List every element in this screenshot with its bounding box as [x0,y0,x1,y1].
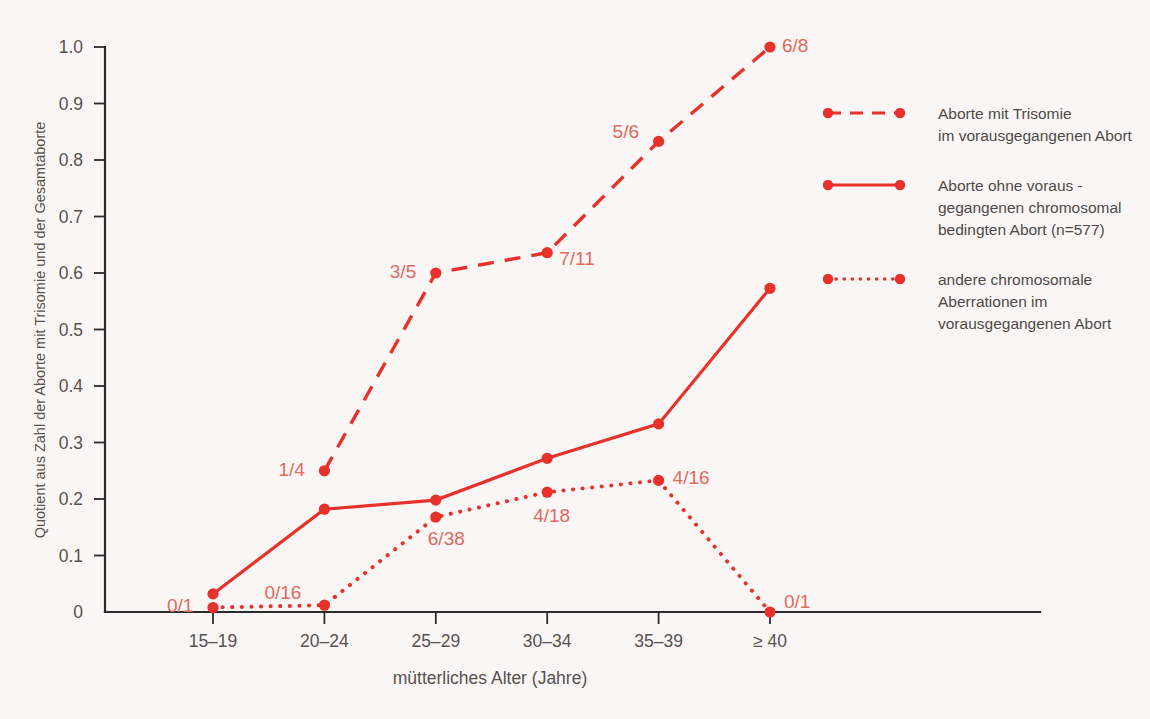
data-point [207,588,218,599]
y-tick-label: 0.2 [59,489,83,509]
y-axis-title-text: Quotient aus Zahl der Aborte mit Trisomi… [32,122,48,539]
legend-entry-1: Aborte mit Trisomieim vorausgegangenen A… [823,105,1133,144]
data-point-label: 0/1 [784,591,810,612]
data-point [542,247,553,258]
data-point [542,487,553,498]
y-tick-label: 0 [73,602,83,622]
data-point [319,600,330,611]
data-point [319,465,330,476]
y-tick-label: 0.6 [59,263,83,283]
data-point [653,418,664,429]
legend-label-line: gegangenen chromosomal [938,199,1122,216]
legend-swatch-dot [895,180,905,190]
data-series-group [207,41,775,617]
y-tick-label: 0.5 [59,320,83,340]
data-point-label: 3/5 [390,261,416,282]
legend-label-line: andere chromosomale [938,271,1092,288]
legend-entry-3: andere chromosomaleAberrationen imvoraus… [823,271,1112,332]
axes [105,47,1040,612]
y-tick-label: 0.4 [59,376,84,396]
chart-figure: Quotient aus Zahl der Aborte mit Trisomi… [0,0,1150,719]
legend-label-line: Aberrationen im [938,293,1047,310]
legend-label-line: bedingten Abort (n=577) [938,221,1105,238]
legend-entry-2: Aborte ohne voraus -gegangenen chromosom… [823,177,1122,238]
data-point-label: 5/6 [613,121,639,142]
x-tick-label: ≥ 40 [753,631,787,651]
data-point [764,41,775,52]
x-axis-ticks: 15–1920–2425–2930–3435–39≥ 40 [189,612,788,651]
legend-swatch-dot [823,274,833,284]
x-tick-label: 15–19 [189,631,238,651]
data-point-label: 7/11 [559,248,595,269]
legend-label-line: im vorausgegangenen Abort [938,127,1133,144]
x-tick-label: 25–29 [411,631,460,651]
data-point [430,511,441,522]
y-tick-label: 0.3 [59,433,83,453]
data-point [764,283,775,294]
legend-swatch-dot [895,274,905,284]
x-tick-label: 30–34 [523,631,572,651]
y-tick-label: 0.8 [59,150,83,170]
x-tick-label: 20–24 [300,631,349,651]
data-point [319,504,330,515]
series-line-1 [324,47,770,471]
legend-swatch-dot [823,180,833,190]
y-tick-label: 1.0 [59,37,84,57]
x-axis-title-text: mütterliches Alter (Jahre) [393,668,588,688]
legend-swatch-dot [823,108,833,118]
legend-label-line: vorausgegangenen Abort [938,315,1112,332]
data-point [430,495,441,506]
data-point-label: 4/18 [533,505,570,526]
data-point [653,475,664,486]
y-axis-title: Quotient aus Zahl der Aborte mit Trisomi… [32,122,48,539]
series-line-2 [213,288,770,594]
data-point-label: 1/4 [278,459,305,480]
data-point [430,267,441,278]
legend-label-line: Aborte mit Trisomie [938,105,1072,122]
data-point-label: 6/38 [428,528,465,549]
y-tick-label: 0.1 [59,546,83,566]
x-tick-label: 35–39 [634,631,683,651]
data-point [764,606,775,617]
data-point-label: 0/1 [167,595,193,616]
data-point [542,453,553,464]
legend: Aborte mit Trisomieim vorausgegangenen A… [823,105,1133,332]
point-annotations-group: 1/43/57/115/66/80/10/166/384/184/160/1 [167,35,810,616]
legend-label-line: Aborte ohne voraus - [938,177,1083,194]
y-axis-ticks: 1.00.90.80.70.60.50.40.30.20.10 [59,37,105,622]
data-point [207,602,218,613]
data-point-label: 0/16 [264,582,301,603]
data-point-label: 4/16 [673,467,710,488]
y-tick-label: 0.9 [59,94,83,114]
chart-canvas: Quotient aus Zahl der Aborte mit Trisomi… [0,0,1150,719]
data-point [653,136,664,147]
data-point-label: 6/8 [782,35,808,56]
y-tick-label: 0.7 [59,207,83,227]
legend-swatch-dot [895,108,905,118]
